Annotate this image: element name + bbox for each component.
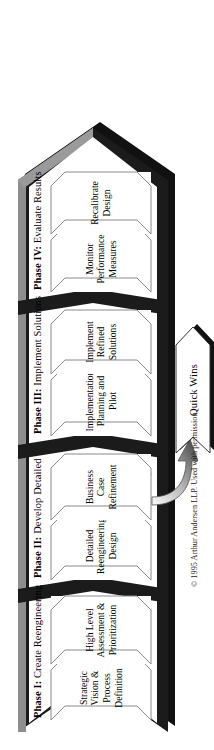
- step-implement-refined-solutions[interactable]: Implement Refined Solutions: [51, 310, 151, 374]
- step-chevron-shape: [51, 366, 151, 436]
- step-chevron-shape: [51, 310, 151, 374]
- phase-block-2[interactable]: Phase II: Develop Detailed Design Detail…: [29, 454, 157, 580]
- step-monitor-performance-measures[interactable]: Monitor Performance Measures: [51, 226, 151, 292]
- phase-label-4: Phase IV:: [32, 246, 43, 290]
- phase-block-1[interactable]: Phase I: Create Reengineering Strategy S…: [29, 596, 157, 720]
- diagram-canvas: Phase I: Create Reengineering Strategy S…: [0, 0, 212, 750]
- step-recalibrate-design[interactable]: Recalibrate Design: [51, 172, 151, 234]
- methodology-chevron: Phase I: Create Reengineering Strategy S…: [18, 128, 168, 732]
- step-chevron-shape: [51, 656, 151, 720]
- phase-label-1: Phase I:: [32, 681, 43, 718]
- phase-name-3: Implement Solutions: [32, 296, 43, 386]
- phase-block-4[interactable]: Phase IV: Evaluate Results Monitor Perfo…: [29, 172, 157, 292]
- phase-label-2: Phase II:: [32, 537, 43, 578]
- step-chevron-shape: [51, 172, 151, 234]
- step-strategic-vision[interactable]: Strategic Vision & Process Definition: [51, 656, 151, 720]
- step-chevron-shape: [51, 226, 151, 292]
- phase-name-2: Develop Detailed: [32, 458, 43, 533]
- step-chevron-shape: [51, 596, 151, 664]
- step-chevron-shape: [51, 454, 151, 520]
- step-implementation-planning-pilot[interactable]: Implementation Planning and Pilot: [51, 366, 151, 436]
- step-detailed-reengineering-design[interactable]: Detailed Reengineering Design: [51, 512, 151, 580]
- step-chevron-shape: [51, 512, 151, 580]
- step-business-case-refinement[interactable]: Business Case Refinement: [51, 454, 151, 520]
- phase-name-4: Evaluate Results: [32, 171, 43, 243]
- step-high-level-assessment[interactable]: High Level Assessment & Prioritization: [51, 596, 151, 664]
- copyright-notice: © 1995 Arthur Andersen LLP. Used with pe…: [190, 410, 199, 587]
- phase-block-3[interactable]: Phase III: Implement Solutions Implement…: [29, 310, 157, 436]
- phase-name-1: Create Reengineering: [32, 585, 43, 678]
- phase-label-3: Phase III:: [32, 388, 43, 434]
